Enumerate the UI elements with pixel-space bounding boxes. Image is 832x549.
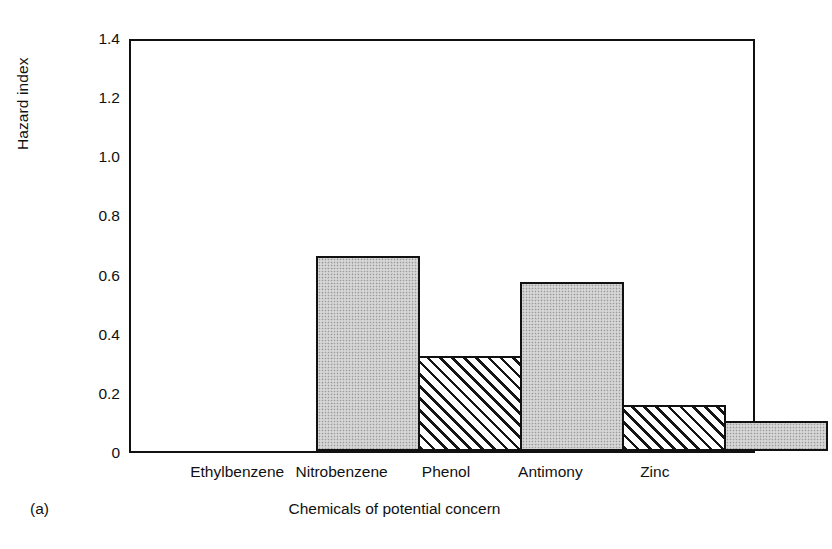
bar-series xyxy=(316,37,832,451)
bar-ethylbenzene xyxy=(316,256,420,451)
x-tick-label: Antimony xyxy=(518,462,583,482)
y-tick-label: 0 xyxy=(62,445,120,461)
y-axis-title: Hazard index xyxy=(14,0,32,150)
bar-nitrobenzene xyxy=(418,356,522,451)
x-axis-title: Chemicals of potential concern xyxy=(0,500,789,518)
y-tick-label: 0.6 xyxy=(62,268,120,284)
y-axis-tick-labels: 00.20.40.60.81.01.21.4 xyxy=(62,0,120,549)
plot-area xyxy=(129,39,755,453)
x-axis-tick-labels: EthylbenzeneNitrobenzenePhenolAntimonyZi… xyxy=(129,462,755,486)
y-tick-label: 0.4 xyxy=(62,327,120,343)
x-tick-label: Ethylbenzene xyxy=(190,462,284,482)
y-tick-label: 0.2 xyxy=(62,386,120,402)
bar-zinc xyxy=(724,421,828,451)
y-tick-label: 1.2 xyxy=(62,90,120,106)
x-tick-label: Zinc xyxy=(640,462,669,482)
x-tick-label: Nitrobenzene xyxy=(295,462,387,482)
y-tick-label: 1.4 xyxy=(62,31,120,47)
panel-caption: (a) xyxy=(30,500,49,518)
bar-antimony xyxy=(622,405,726,451)
bar-phenol xyxy=(520,282,624,451)
x-tick-label: Phenol xyxy=(422,462,470,482)
y-tick-label: 0.8 xyxy=(62,208,120,224)
y-tick-label: 1.0 xyxy=(62,149,120,165)
